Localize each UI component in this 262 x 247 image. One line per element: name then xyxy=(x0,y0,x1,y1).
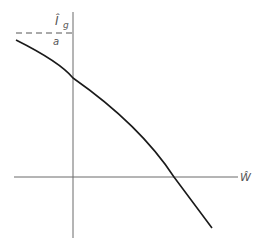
curve xyxy=(16,40,212,228)
x-axis-label: Ŵ xyxy=(240,171,252,184)
intercept-label: a xyxy=(53,36,59,47)
y-axis-subscript: g xyxy=(63,20,69,30)
diagram-canvas: Î g a Ŵ xyxy=(0,0,262,247)
y-axis-label: Î xyxy=(55,13,60,28)
